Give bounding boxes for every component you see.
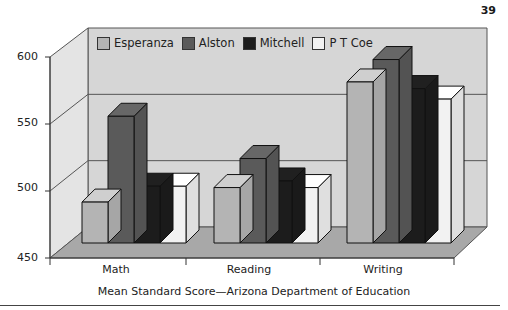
page-number: 39 (481, 4, 496, 17)
bar-side-face (425, 76, 438, 243)
y-tick-label: 600 (8, 50, 38, 63)
y-tick-label: 550 (8, 116, 38, 129)
legend-label: Alston (199, 36, 235, 50)
legend-item-esperanza: Esperanza (97, 36, 174, 50)
bar-front-face (82, 202, 108, 243)
x-category-label: Writing (343, 263, 423, 276)
legend: Esperanza Alston Mitchell P T Coe (97, 36, 381, 50)
bar-side-face (399, 47, 412, 243)
bar-side-face (451, 86, 464, 243)
legend-swatch (97, 37, 110, 50)
bar-front-face (347, 82, 373, 243)
legend-item-mitchell: Mitchell (243, 36, 305, 50)
legend-label: Esperanza (114, 36, 174, 50)
horizontal-rule (0, 305, 500, 306)
legend-label: Mitchell (260, 36, 305, 50)
legend-swatch (182, 37, 195, 50)
x-category-label: Reading (209, 263, 289, 276)
legend-item-pt-coe: P T Coe (312, 36, 372, 50)
legend-swatch (243, 37, 256, 50)
chart-caption: Mean Standard Score—Arizona Department o… (0, 285, 508, 298)
legend-label: P T Coe (329, 36, 372, 50)
bar-front-face (214, 188, 240, 243)
y-tick-label: 450 (8, 251, 38, 264)
legend-item-alston: Alston (182, 36, 235, 50)
y-tick-label: 500 (8, 181, 38, 194)
bar-side-face (266, 146, 279, 243)
bar-side-face (373, 69, 386, 243)
x-category-label: Math (76, 263, 156, 276)
bar-side-face (134, 103, 147, 243)
legend-swatch (312, 37, 325, 50)
